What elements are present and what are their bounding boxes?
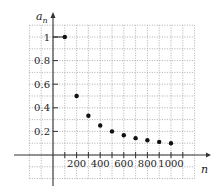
sequence-scatter-chart: 20040060080010000.20.40.60.81 an n [0,0,219,190]
data-point [74,94,78,98]
x-axis-label: n [201,163,208,176]
data-point [122,133,126,137]
x-tick-label: 600 [114,158,133,169]
data-point [157,140,161,144]
x-tick-label: 800 [138,158,157,169]
data-point [86,114,90,118]
y-tick-label: 0.6 [34,79,50,90]
y-tick-label: 0.4 [34,102,50,113]
data-point [169,141,173,145]
tick-marks [53,37,183,158]
data-point [110,129,114,133]
x-tick-label: 200 [67,158,86,169]
y-tick-label: 0.2 [34,126,50,137]
data-point [133,136,137,140]
y-tick-label: 0.8 [34,55,50,66]
data-points [53,35,173,146]
y-axis-label: an [36,10,48,25]
x-tick-label: 400 [91,158,110,169]
data-point [63,35,67,39]
data-point [98,123,102,127]
y-axis-arrow-icon [51,12,56,18]
tick-labels: 20040060080010000.20.40.60.81 [34,32,184,170]
data-point [145,138,149,142]
x-tick-label: 1000 [158,158,183,169]
x-axis-arrow-icon [206,153,211,158]
y-tick-label: 1 [44,32,50,43]
